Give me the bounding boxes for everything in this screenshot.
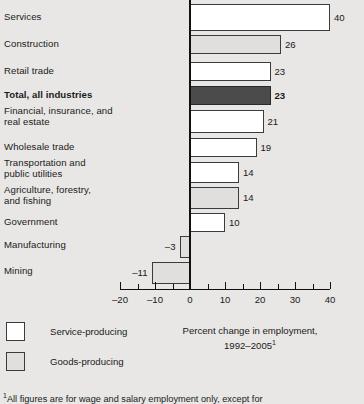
bar-service [190, 138, 257, 157]
bar-value-label: 10 [229, 218, 240, 228]
x-axis-minor-tick [278, 284, 279, 289]
x-axis-minor-tick [173, 284, 174, 289]
x-axis-major-tick [120, 282, 121, 289]
footnote-text: All figures are for wage and salary empl… [7, 394, 263, 404]
bar-value-label: 26 [285, 40, 296, 50]
bar-goods [190, 35, 281, 54]
bar-value-label: 40 [334, 13, 345, 23]
bar-rows-container: Services40Construction26Retail trade23To… [0, 0, 364, 288]
employment-change-bar-chart: Services40Construction26Retail trade23To… [0, 0, 364, 404]
bar-value-label: 14 [243, 168, 254, 178]
legend-swatch-service [6, 322, 25, 341]
bar-category-label: Financial, insurance, and real estate [4, 105, 113, 128]
x-axis-line [120, 289, 330, 290]
bar-value-label: –3 [158, 242, 176, 252]
bar-category-label: Total, all industries [4, 89, 92, 100]
chart-title-footnote-marker: 1 [272, 339, 276, 346]
bar-category-label: Retail trade [4, 65, 54, 76]
chart-footnote: 1All figures are for wage and salary emp… [3, 390, 353, 404]
bar-service [190, 213, 225, 232]
bar-goods [152, 262, 191, 284]
legend-label-goods: Goods-producing [50, 352, 124, 371]
bar-category-label: Agriculture, forestry, and fishing [4, 184, 91, 207]
bar-category-label: Government [4, 216, 58, 227]
x-axis-major-tick [190, 282, 191, 289]
x-axis-tick-label: –10 [139, 294, 171, 305]
legend-item-service: Service-producing [6, 322, 166, 342]
bar-category-label: Construction [4, 38, 59, 49]
bar-category-label: Mining [4, 265, 33, 276]
bar-value-label: –11 [130, 268, 148, 278]
legend-swatch-goods [6, 352, 25, 371]
bar-value-label: 23 [275, 91, 286, 101]
x-axis-minor-tick [208, 284, 209, 289]
x-axis-tick-label: 10 [209, 294, 241, 305]
legend-item-goods: Goods-producing [6, 352, 166, 372]
chart-title-line1: Percent change in employment, [183, 325, 318, 336]
bar-service [190, 162, 239, 183]
x-axis-major-tick [260, 282, 261, 289]
bar-category-label: Wholesale trade [4, 141, 75, 152]
chart-title-line2: 1992–2005 [224, 340, 272, 351]
bar-value-label: 23 [275, 67, 286, 77]
x-axis-minor-tick [243, 284, 244, 289]
bar-goods [190, 187, 239, 209]
bar-value-label: 21 [268, 117, 279, 127]
x-axis-minor-tick [138, 284, 139, 289]
bar-category-label: Transportation and public utilities [4, 157, 86, 180]
legend-label-service: Service-producing [50, 322, 127, 341]
x-axis-major-tick [295, 282, 296, 289]
bar-value-label: 14 [243, 193, 254, 203]
x-axis-major-tick [225, 282, 226, 289]
bar-value-label: 19 [261, 143, 272, 153]
bar-service [190, 4, 330, 31]
chart-title: Percent change in employment, 1992–20051 [150, 325, 350, 352]
x-axis-tick-label: 30 [279, 294, 311, 305]
bar-category-label: Manufacturing [4, 239, 66, 250]
x-axis-tick-label: –20 [104, 294, 136, 305]
zero-axis-line [189, 0, 191, 289]
x-axis-major-tick [330, 282, 331, 289]
x-axis-major-tick [155, 282, 156, 289]
bar-total [190, 86, 271, 105]
bar-category-label: Services [4, 11, 41, 22]
bar-service [190, 62, 271, 81]
x-axis-tick-label: 20 [244, 294, 276, 305]
bar-service [190, 110, 264, 133]
x-axis-tick-label: 40 [314, 294, 346, 305]
x-axis-tick-label: 0 [174, 294, 206, 305]
x-axis-minor-tick [313, 284, 314, 289]
